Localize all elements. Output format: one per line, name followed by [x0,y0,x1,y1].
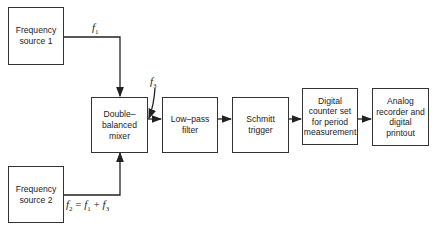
f3-label: f3 [150,75,157,90]
f2-equation-label: f2 = f1 + f3 [66,198,109,213]
double-balanced-mixer-block: Double–balanced mixer [91,97,148,153]
schmitt-trigger-block: Schmitt trigger [232,97,289,153]
block-label: Digital counter set for period measureme… [304,96,357,138]
block-label: Analog recorder and digital printout [374,96,427,138]
low-pass-filter-block: Low–pass filter [162,97,218,153]
analog-recorder-block: Analog recorder and digital printout [372,88,429,146]
block-label: Frequency source 1 [10,25,62,47]
block-label: Low–pass filter [164,114,216,136]
digital-counter-block: Digital counter set for period measureme… [302,88,358,145]
block-label: Double–balanced mixer [93,109,146,142]
block-label: Frequency source 2 [10,184,62,206]
frequency-source-2-block: Frequency source 2 [8,166,64,223]
block-label: Schmitt trigger [234,114,287,136]
frequency-source-1-block: Frequency source 1 [8,7,64,65]
f1-label: f1 [92,21,99,36]
